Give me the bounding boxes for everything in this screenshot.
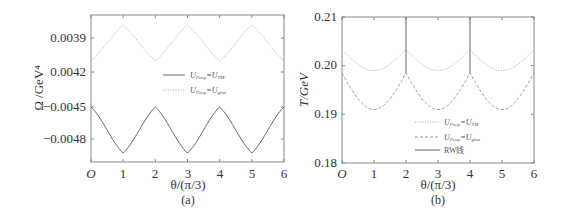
legend-b: UPoop=UTM UPoop=Uglue RW线	[415, 118, 481, 155]
series-line	[342, 73, 534, 110]
panel-b: 0.21 0.20 0.19 0.18 O 1 2 3 4 5 6 θ/(π/3…	[296, 9, 538, 207]
y-tick-label: 0.21	[314, 9, 337, 24]
series-line	[91, 107, 284, 153]
series-line	[342, 50, 534, 71]
x-tick-label: 6	[531, 166, 538, 181]
y-tick-label: 0.18	[314, 155, 337, 170]
x-tick-label: 4	[217, 166, 224, 181]
panel-a: 0.0039 0.0042 −0.0045 −0.0048 O 1 2 3 4 …	[31, 15, 288, 207]
curves-b	[342, 17, 534, 110]
x-tick-label: 5	[249, 166, 256, 181]
plot-frame-b	[342, 17, 534, 163]
x-tick-label: 2	[152, 166, 159, 181]
y-axis-title: Ω /GeV⁴	[31, 65, 46, 111]
y-tick-label: 0.19	[314, 106, 337, 121]
y-tick-label: 0.0039	[50, 30, 86, 45]
legend-label: RW线	[444, 145, 464, 155]
x-tick-label: O	[86, 166, 96, 181]
x-tick-label: 4	[467, 166, 474, 181]
y-tick-label: −0.0048	[43, 131, 86, 146]
x-tick-label: 6	[281, 166, 288, 181]
legend-label: UPoop=UTM	[444, 118, 479, 127]
curves-a	[91, 25, 284, 153]
y-tick-label: −0.0045	[43, 99, 86, 114]
figure: 0.0039 0.0042 −0.0045 −0.0048 O 1 2 3 4 …	[0, 0, 565, 214]
plot-frame-a	[91, 15, 284, 162]
x-tick-label: 5	[499, 166, 506, 181]
legend-label: UPoop=Uglue	[190, 86, 227, 95]
y-axis-title: T/GeV	[296, 71, 311, 107]
x-tick-label: 1	[371, 166, 378, 181]
legend-label: UPoop=Uglue	[444, 133, 481, 142]
panel-label-b: (b)	[431, 193, 445, 207]
x-tick-label: 2	[403, 166, 410, 181]
axis-ticks-a	[91, 15, 284, 162]
axis-ticks-b	[342, 17, 534, 163]
legend-label: UPoop=UTM	[190, 71, 225, 80]
y-tick-label: 0.0042	[50, 64, 86, 79]
panel-label-a: (a)	[181, 193, 194, 207]
x-axis-title: θ/(π/3)	[170, 177, 205, 192]
y-tick-label: 0.20	[314, 57, 337, 72]
legend-a: UPoop=UTM UPoop=Uglue	[163, 71, 227, 95]
x-tick-label: O	[337, 166, 347, 181]
x-axis-title: θ/(π/3)	[420, 177, 455, 192]
x-tick-label: 1	[120, 166, 127, 181]
series-line	[91, 25, 284, 61]
